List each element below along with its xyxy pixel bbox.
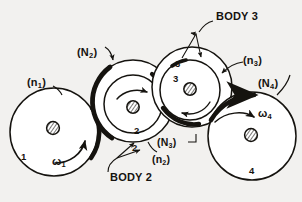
label-n1: (n1) <box>27 77 46 89</box>
gear-4-pivot-hub <box>245 129 258 142</box>
body-number-3-outer: 3 <box>175 59 180 69</box>
body-number-4: 4 <box>249 166 254 176</box>
gear-2-pivot-hub <box>127 101 139 113</box>
label-body-2: BODY 2 <box>110 172 152 183</box>
label-N3: (N3) <box>157 137 176 150</box>
body-number-2-inner: 2 <box>132 143 137 153</box>
label-omega-4: ω4 <box>258 108 272 120</box>
gear-3-pivot-hub <box>184 83 196 95</box>
body-number-3-inner: 3 <box>173 74 178 84</box>
body-number-1: 1 <box>21 152 26 162</box>
label-body-3: BODY 3 <box>216 11 258 22</box>
gear-1-pivot-hub <box>47 122 60 135</box>
label-N4: (N4) <box>258 78 278 90</box>
label-omega-1: ω1 <box>52 156 66 168</box>
label-N2: (N2) <box>77 47 97 59</box>
body-number-2-outer: 2 <box>134 126 139 136</box>
label-n3: (n3) <box>243 55 262 67</box>
label-n2: (n2) <box>152 154 170 167</box>
